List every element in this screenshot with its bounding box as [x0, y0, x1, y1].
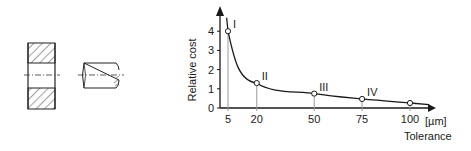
y-axis-label: Relative cost	[186, 39, 198, 102]
data-point	[254, 80, 259, 85]
pin-chamfer	[84, 63, 86, 88]
drop-lines	[228, 34, 410, 111]
x-axis-unit: [µm]	[425, 115, 447, 127]
x-tick-label: 5	[225, 113, 231, 125]
data-point	[360, 96, 365, 101]
x-tick-label: 75	[356, 113, 368, 125]
axes	[216, 6, 436, 112]
point-label: I	[233, 18, 236, 30]
pin-drawing	[78, 63, 124, 88]
hatched-section-top	[28, 43, 55, 63]
y-tick-label: 0	[208, 102, 214, 114]
point-label: II	[262, 70, 268, 82]
point-label: IV	[367, 86, 378, 98]
tick-labels: 012345205075100	[208, 25, 419, 125]
x-axis-arrow-icon	[428, 104, 436, 112]
y-axis-arrow-icon	[216, 6, 224, 16]
cost-chart: IIIIIIIV 012345205075100 Relative cost […	[186, 6, 452, 142]
y-tick-label: 4	[208, 25, 214, 37]
data-point	[312, 91, 317, 96]
x-axis-label: Tolerance	[404, 130, 452, 142]
pin-outline	[83, 63, 120, 88]
data-points: IIIIIIIV	[225, 18, 412, 105]
hatched-section-bottom	[28, 88, 55, 109]
x-tick-label: 100	[401, 113, 419, 125]
x-tick-label: 50	[308, 113, 320, 125]
point-label: III	[319, 81, 328, 93]
y-tick-label: 1	[208, 83, 214, 95]
bore-section-drawing	[24, 43, 60, 109]
data-point	[225, 29, 230, 34]
data-point	[407, 100, 412, 105]
y-tick-label: 2	[208, 64, 214, 76]
figure: IIIIIIIV 012345205075100 Relative cost […	[0, 0, 471, 151]
x-tick-label: 20	[251, 113, 263, 125]
y-tick-label: 3	[208, 44, 214, 56]
